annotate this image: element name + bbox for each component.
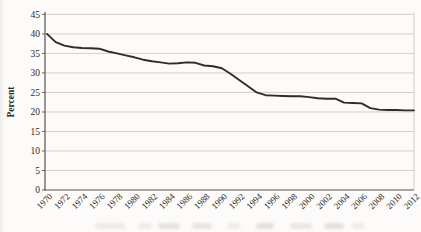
x-tick-label: 2002 — [314, 191, 334, 211]
x-tick-label: 1988 — [192, 191, 212, 211]
chart-figure: Percent 05101520253035404519701972197419… — [0, 0, 421, 232]
x-tick-label: 1984 — [157, 191, 177, 211]
y-tick-label: 35 — [31, 49, 41, 59]
x-tick-label: 1998 — [279, 191, 299, 211]
y-axis-title: Percent — [6, 86, 16, 118]
data-line — [47, 34, 414, 111]
y-tick-label: 45 — [31, 10, 41, 20]
x-tick-label: 1982 — [139, 191, 159, 211]
x-tick-label: 1990 — [209, 191, 229, 211]
y-tick-label: 5 — [35, 166, 40, 176]
x-tick-label: 2006 — [349, 191, 369, 211]
y-tick-label: 20 — [31, 107, 41, 117]
x-tick-label: 1980 — [122, 191, 142, 211]
y-tick-label: 30 — [31, 68, 41, 78]
x-tick-label: 2000 — [297, 191, 317, 211]
x-tick-label: 1972 — [52, 191, 72, 211]
x-tick-label: 2010 — [384, 191, 404, 211]
x-tick-label: 1974 — [70, 191, 90, 211]
line-chart: Percent 05101520253035404519701972197419… — [0, 0, 421, 232]
x-tick-label: 2012 — [402, 191, 421, 211]
y-tick-label: 0 — [35, 185, 40, 195]
x-tick-label: 1994 — [244, 191, 264, 211]
x-tick-label: 1986 — [174, 191, 194, 211]
y-tick-label: 15 — [31, 127, 41, 137]
x-tick-label: 2004 — [332, 191, 352, 211]
y-tick-label: 25 — [31, 88, 41, 98]
x-tick-label: 2008 — [367, 191, 387, 211]
y-tick-label: 10 — [31, 146, 41, 156]
x-tick-label: 1992 — [227, 191, 247, 211]
y-tick-label: 40 — [31, 29, 41, 39]
x-tick-label: 1976 — [87, 191, 107, 211]
x-tick-label: 1978 — [105, 191, 125, 211]
x-tick-label: 1996 — [262, 191, 282, 211]
